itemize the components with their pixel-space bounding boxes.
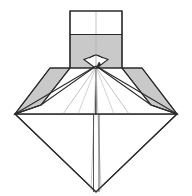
origami-diagram-figure — [0, 0, 192, 196]
lower-diamond-body — [15, 114, 177, 192]
origami-diagram-svg — [0, 0, 192, 196]
